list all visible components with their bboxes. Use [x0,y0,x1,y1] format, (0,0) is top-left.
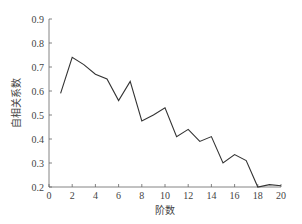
x-tick-label: 18 [253,190,263,201]
y-tick-label: 0.9 [32,14,45,25]
x-tick-label: 16 [230,190,240,201]
plot-lines [61,57,281,187]
y-tick-label: 0.4 [32,134,45,145]
x-axis-title: 阶数 [155,204,175,216]
y-axis-title: 自相关系数 [10,78,22,128]
y-tick-label: 0.5 [32,110,45,121]
x-tick-label: 8 [139,190,144,201]
y-tick-label: 0.6 [32,86,45,97]
series-line [61,57,281,187]
x-tick-label: 12 [183,190,193,201]
x-tick-label: 0 [47,190,52,201]
y-tick-label: 0.7 [32,62,45,73]
y-tick-label: 0.3 [32,158,45,169]
x-axis: 02468101214161820 [47,184,287,201]
x-tick-label: 6 [116,190,121,201]
x-tick-label: 2 [70,190,75,201]
y-tick-label: 0.2 [32,182,45,193]
line-chart: 0.20.30.40.50.60.70.80.9 024681012141618… [0,0,302,224]
x-tick-label: 14 [206,190,216,201]
x-tick-label: 10 [160,190,170,201]
y-axis: 0.20.30.40.50.60.70.80.9 [32,14,53,193]
x-tick-label: 4 [93,190,98,201]
x-tick-label: 20 [276,190,286,201]
y-tick-label: 0.8 [32,38,45,49]
